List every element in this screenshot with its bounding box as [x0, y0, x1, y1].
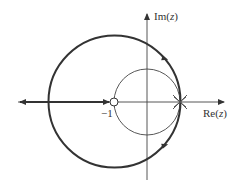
real-axis-label: Re(z): [203, 107, 227, 120]
zero-label: −1: [101, 107, 113, 119]
root-locus-diagram: −1 Re(z) Im(z): [0, 0, 235, 185]
imaginary-axis-label: Im(z): [154, 10, 178, 23]
zero-marker-icon: [110, 98, 118, 106]
